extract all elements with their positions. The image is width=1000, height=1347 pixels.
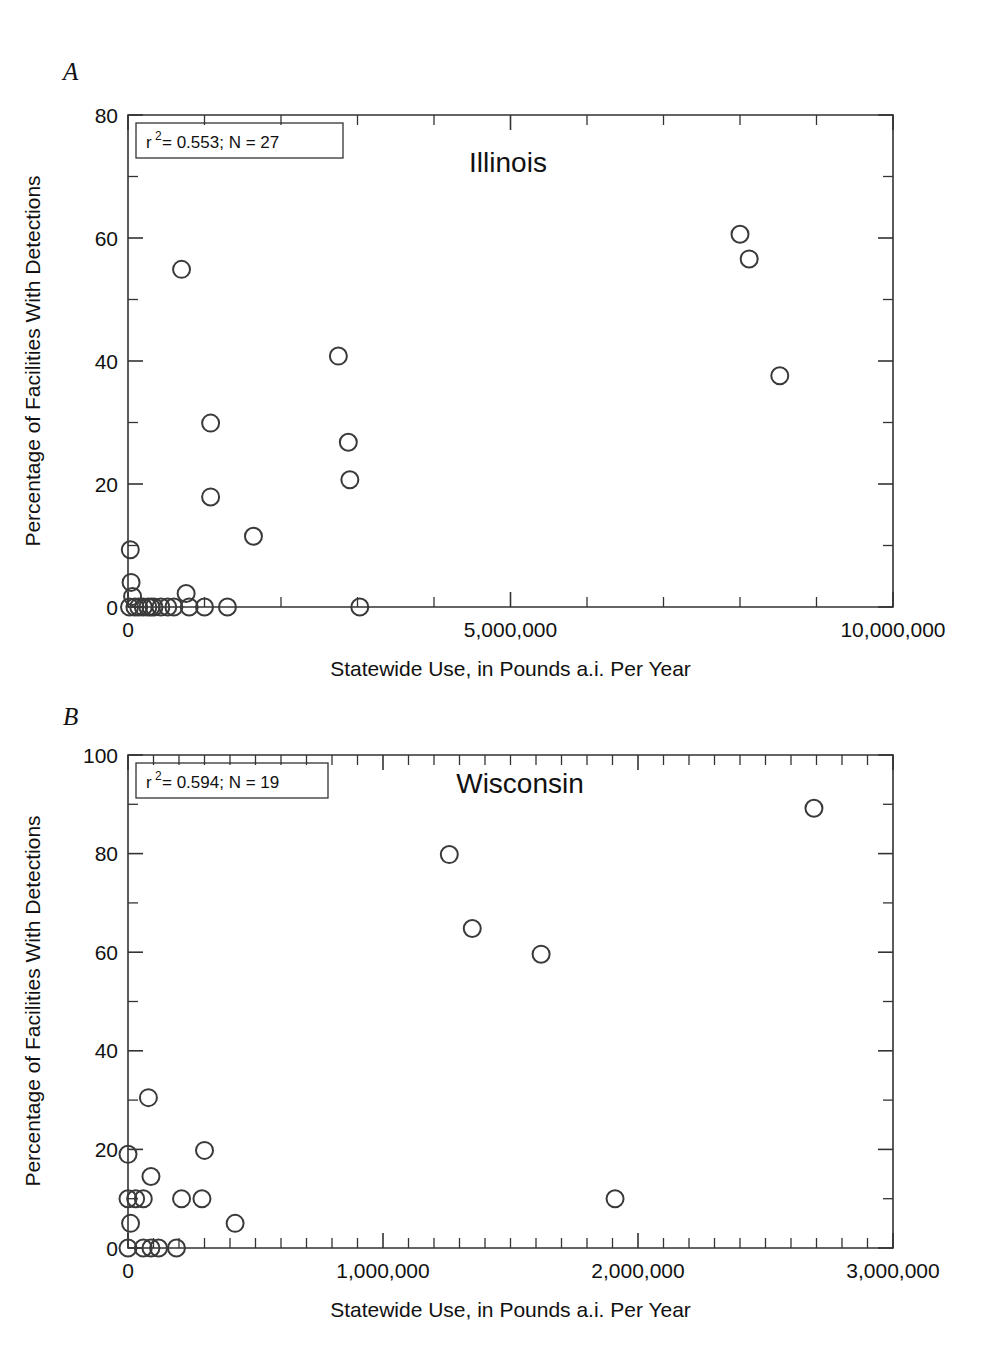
panel-b-ytick-60: 60	[95, 941, 118, 964]
panel-a-ytick-20: 20	[95, 473, 118, 496]
panel-a-ytick-40: 40	[95, 350, 118, 373]
data-point	[441, 846, 458, 863]
panel-b: B	[0, 655, 1000, 1347]
panel-a-xtick-10m: 10,000,000	[840, 618, 945, 641]
panel-a-stat-annotation: r 2 = 0.553; N = 27	[136, 123, 343, 158]
panel-a-ytick-80: 80	[95, 104, 118, 127]
data-point	[173, 261, 190, 278]
panel-b-x-axis-ticks	[128, 1233, 893, 1248]
data-point	[122, 541, 139, 558]
data-point	[227, 1215, 244, 1232]
panel-a-xtick-0: 0	[122, 618, 134, 641]
data-point	[771, 367, 788, 384]
panel-b-plot: 0 20 40 60 80 100 0 1,000,000 2,000,000 …	[0, 655, 1000, 1347]
panel-a-state-title: Illinois	[469, 147, 547, 178]
panel-a-y-axis-ticks	[128, 115, 143, 607]
panel-b-ytick-40: 40	[95, 1039, 118, 1062]
panel-b-x-axis-label: Statewide Use, in Pounds a.i. Per Year	[330, 1298, 691, 1321]
panel-a-data-points	[121, 226, 788, 616]
panel-b-y-tick-labels: 0 20 40 60 80 100	[83, 744, 118, 1260]
data-point	[741, 250, 758, 267]
data-point	[140, 1089, 157, 1106]
panel-a-x-tick-labels: 0 5,000,000 10,000,000	[122, 618, 945, 641]
data-point	[341, 471, 358, 488]
panel-b-ytick-20: 20	[95, 1138, 118, 1161]
panel-b-y-axis-ticks	[128, 755, 143, 1248]
panel-b-xtick-3m: 3,000,000	[846, 1259, 939, 1282]
panel-b-x-tick-labels: 0 1,000,000 2,000,000 3,000,000	[122, 1259, 940, 1282]
panel-a-ytick-0: 0	[106, 596, 118, 619]
data-point	[330, 348, 347, 365]
data-point	[464, 920, 481, 937]
data-point	[805, 800, 822, 817]
panel-a-stat-rest: = 0.553; N = 27	[162, 133, 279, 152]
panel-b-y-axis-ticks-right	[878, 755, 893, 1248]
panel-a-stat-exponent: 2	[155, 129, 162, 143]
panel-a-stat-r: r	[146, 133, 152, 152]
panel-b-stat-annotation: r 2 = 0.594; N = 19	[136, 763, 328, 798]
panel-b-state-title: Wisconsin	[456, 768, 584, 799]
panel-b-stat-exponent: 2	[155, 769, 162, 783]
panel-b-xtick-0: 0	[122, 1259, 134, 1282]
panel-b-xtick-2m: 2,000,000	[591, 1259, 684, 1282]
panel-a-plot: 0 20 40 60 80	[0, 0, 1000, 690]
data-point	[122, 1215, 139, 1232]
panel-a-y-axis-label: Percentage of Facilities With Detections	[21, 175, 44, 546]
data-point	[202, 488, 219, 505]
panel-b-stat-rest: = 0.594; N = 19	[162, 773, 279, 792]
data-point	[142, 1168, 159, 1185]
data-point	[533, 946, 550, 963]
panel-b-ytick-80: 80	[95, 842, 118, 865]
panel-a-xtick-5m: 5,000,000	[464, 618, 557, 641]
data-point	[340, 434, 357, 451]
panel-b-y-axis-label: Percentage of Facilities With Detections	[21, 815, 44, 1186]
panel-a-y-axis-ticks-right	[878, 115, 893, 607]
panel-a: A	[0, 0, 1000, 690]
panel-b-frame	[128, 755, 893, 1248]
data-point	[193, 1190, 210, 1207]
panel-a-frame	[128, 115, 893, 607]
data-point	[202, 415, 219, 432]
panel-a-y-tick-labels: 0 20 40 60 80	[95, 104, 118, 619]
figure-container: A	[0, 0, 1000, 1347]
panel-b-xtick-1m: 1,000,000	[336, 1259, 429, 1282]
data-point	[196, 1142, 213, 1159]
data-point	[732, 226, 749, 243]
panel-b-ytick-0: 0	[106, 1237, 118, 1260]
data-point	[245, 528, 262, 545]
panel-b-ytick-100: 100	[83, 744, 118, 767]
panel-b-data-points	[120, 800, 823, 1257]
panel-b-stat-r: r	[146, 773, 152, 792]
panel-a-ytick-60: 60	[95, 227, 118, 250]
data-point	[607, 1190, 624, 1207]
panel-a-x-axis-ticks	[128, 592, 893, 607]
data-point	[173, 1190, 190, 1207]
